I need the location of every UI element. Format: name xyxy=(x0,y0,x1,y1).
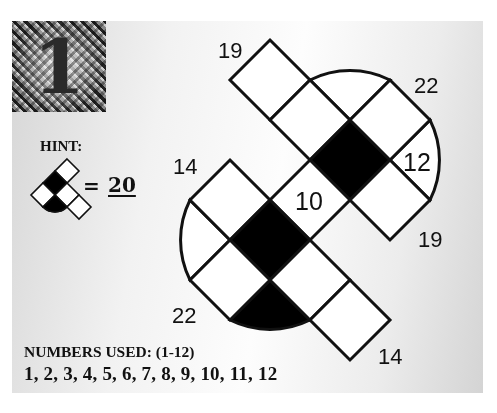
clue-left: 14 xyxy=(173,154,197,179)
clue-bottom-left: 22 xyxy=(172,303,196,328)
puzzle-number-badge: 1 xyxy=(12,21,106,112)
clue-center: 10 xyxy=(295,187,323,215)
clue-bottom-right: 14 xyxy=(378,344,402,369)
clue-top-left: 19 xyxy=(218,38,242,63)
hint-diagram xyxy=(31,159,91,219)
clue-right-arc: 12 xyxy=(403,148,431,176)
puzzle-number: 1 xyxy=(12,23,106,111)
clue-right-lower: 19 xyxy=(418,227,442,252)
clue-top-right: 22 xyxy=(414,73,438,98)
